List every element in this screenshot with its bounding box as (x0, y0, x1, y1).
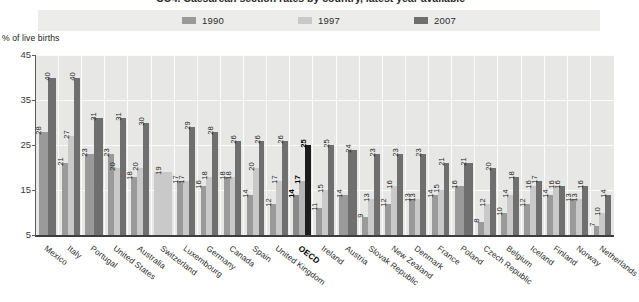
bar-group-belgium[interactable]: 101418 (498, 55, 521, 235)
bar-group-germany[interactable]: 161828 (198, 55, 221, 235)
bar-value-label: 29 (185, 122, 193, 130)
y-tick-label-35: 35 (0, 94, 31, 105)
bar-value-label: 12 (381, 198, 389, 206)
bar-group-united-kingdom[interactable]: 121726 (267, 55, 290, 235)
x-label-poland: Poland (459, 244, 485, 267)
x-label-austria: Austria (343, 244, 369, 267)
bar-value-label: 26 (231, 135, 239, 143)
bar-value-label: 14 (601, 189, 609, 197)
y-tick-mark-15 (32, 190, 36, 191)
bar-france-2007[interactable]: 21 (444, 163, 450, 235)
bar-group-australia[interactable]: 182030 (128, 55, 151, 235)
bar-value-label: 18 (127, 171, 135, 179)
legend-item-2007: 2007 (414, 15, 456, 26)
bar-group-iceland[interactable]: 121617 (522, 55, 545, 235)
bar-value-label: 21 (57, 158, 65, 166)
bar-value-label: 20 (132, 162, 140, 170)
bar-netherlands-2007[interactable]: 14 (605, 195, 611, 236)
bar-group-norway[interactable]: 131316 (568, 55, 591, 235)
y-axis-caption: % of live births (2, 33, 59, 43)
legend-swatch-2007 (414, 17, 428, 24)
bar-portugal-1990[interactable]: 23 (85, 154, 94, 235)
bar-value-label: 10 (595, 207, 603, 215)
bar-group-netherlands[interactable]: 71014 (591, 55, 614, 235)
bar-value-label: 14 (502, 189, 510, 197)
bar-value-label: 9 (358, 214, 366, 218)
bar-value-label: 30 (138, 117, 146, 125)
bar-group-switzerland[interactable]: 19 (152, 55, 175, 235)
bar-austria-1990[interactable]: 14 (339, 195, 348, 236)
bar-value-label: 8 (473, 218, 481, 222)
x-axis-category-labels: MexicoItalyPortugalUnited StatesAustrali… (0, 244, 621, 302)
bar-italy-2007[interactable]: 40 (74, 78, 80, 236)
bar-group-new-zealand[interactable]: 121623 (383, 55, 406, 235)
bar-group-canada[interactable]: 181826 (221, 55, 244, 235)
legend-swatch-1997 (298, 17, 312, 24)
bar-value-label: 40 (44, 72, 52, 80)
bar-value-label: 19 (156, 167, 164, 175)
bar-new-zealand-2007[interactable]: 23 (397, 154, 403, 235)
bar-oecd-2007[interactable]: 25 (305, 145, 311, 235)
x-label-finland: Finland (551, 244, 578, 268)
bar-group-united-states[interactable]: 232031 (105, 55, 128, 235)
y-tick-label-25: 25 (0, 139, 31, 150)
bar-value-label: 17 (179, 176, 187, 184)
bar-value-label: 12 (479, 198, 487, 206)
bar-value-label: 15 (433, 185, 441, 193)
bar-group-portugal[interactable]: 2331 (82, 55, 105, 235)
bar-value-label: 21 (461, 158, 469, 166)
bar-group-luxembourg[interactable]: 171729 (175, 55, 198, 235)
legend-swatch-1990 (182, 17, 196, 24)
bar-value-label: 28 (208, 126, 216, 134)
bar-mexico-1990[interactable]: 28 (39, 132, 48, 236)
bar-group-slovak-republic[interactable]: 91323 (360, 55, 383, 235)
bar-value-label: 23 (82, 149, 90, 157)
bar-value-label: 17 (271, 176, 279, 184)
bar-united-kingdom-2007[interactable]: 26 (282, 141, 288, 236)
bar-poland-1990[interactable]: 16 (455, 186, 464, 236)
plot-area: 2840212740233123203118203019171729161828… (0, 46, 621, 244)
bar-value-label: 16 (452, 180, 460, 188)
bar-portugal-2007[interactable]: 31 (94, 118, 103, 235)
bar-value-label: 31 (115, 113, 123, 121)
bar-group-finland[interactable]: 141616 (545, 55, 568, 235)
bar-germany-2007[interactable]: 28 (212, 132, 218, 236)
bar-norway-2007[interactable]: 16 (582, 186, 588, 236)
x-label-norway: Norway (574, 244, 602, 268)
bar-group-mexico[interactable]: 2840 (36, 55, 59, 235)
bar-spain-2007[interactable]: 26 (259, 141, 265, 236)
bar-value-label: 16 (578, 180, 586, 188)
bar-poland-2007[interactable]: 21 (464, 163, 473, 235)
bar-value-label: 16 (554, 180, 562, 188)
bar-value-label: 25 (323, 140, 331, 148)
bar-value-label: 31 (91, 113, 99, 121)
bar-value-label: 25 (300, 140, 308, 148)
bar-group-spain[interactable]: 142026 (244, 55, 267, 235)
bar-value-label: 14 (288, 189, 296, 197)
bar-slovak-republic-2007[interactable]: 23 (374, 154, 380, 235)
bar-group-poland[interactable]: 1621 (452, 55, 475, 235)
bar-value-label: 17 (294, 176, 302, 184)
bar-value-label: 18 (508, 171, 516, 179)
bar-switzerland-1997[interactable]: 19 (154, 172, 172, 235)
bar-value-label: 14 (336, 189, 344, 197)
chart-title: CO4. Caesarean section rates by country,… (156, 0, 465, 4)
bar-ireland-2007[interactable]: 25 (328, 145, 334, 235)
bar-austria-2007[interactable]: 24 (348, 150, 357, 236)
bar-group-italy[interactable]: 212740 (59, 55, 82, 235)
bar-group-denmark[interactable]: 131323 (406, 55, 429, 235)
chart-title-strip: CO4. Caesarean section rates by country,… (0, 0, 621, 10)
bar-value-label: 14 (242, 189, 250, 197)
bar-canada-2007[interactable]: 26 (235, 141, 241, 236)
bar-czech-republic-2007[interactable]: 20 (490, 168, 496, 236)
x-label-ireland: Ireland (320, 244, 346, 267)
bar-value-label: 26 (254, 135, 262, 143)
bar-group-france[interactable]: 141521 (429, 55, 452, 235)
bar-value-label: 20 (109, 162, 117, 170)
bar-group-austria[interactable]: 1424 (337, 55, 360, 235)
bar-australia-2007[interactable]: 30 (143, 123, 149, 236)
bar-group-ireland[interactable]: 111525 (313, 55, 336, 235)
bar-mexico-2007[interactable]: 40 (48, 78, 57, 236)
x-label-netherlands: Netherlands (597, 244, 639, 278)
